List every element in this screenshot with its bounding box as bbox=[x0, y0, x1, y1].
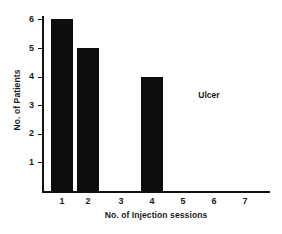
y-tick-label: 2 bbox=[20, 129, 34, 138]
x-axis-line bbox=[42, 191, 270, 193]
bar bbox=[141, 77, 163, 191]
y-tick-label: 5 bbox=[20, 44, 34, 53]
bar bbox=[77, 48, 99, 191]
x-tick-label: 3 bbox=[113, 196, 129, 206]
y-tick-mark bbox=[38, 105, 42, 106]
x-tick-label: 5 bbox=[175, 196, 191, 206]
y-tick-label: 3 bbox=[20, 101, 34, 110]
y-tick-label: 4 bbox=[20, 72, 34, 81]
y-axis-line bbox=[42, 16, 44, 193]
x-axis-label: No. of Injection sessions bbox=[42, 210, 270, 220]
x-tick-label: 4 bbox=[144, 196, 160, 206]
y-tick-mark bbox=[38, 48, 42, 49]
x-tick-label: 7 bbox=[237, 196, 253, 206]
x-tick-label: 1 bbox=[54, 196, 70, 206]
y-tick-mark bbox=[38, 134, 42, 135]
x-tick-label: 6 bbox=[206, 196, 222, 206]
y-tick-mark bbox=[38, 162, 42, 163]
bar bbox=[51, 19, 73, 191]
y-tick-label: 6 bbox=[20, 15, 34, 24]
bar-chart: 123456 1234567 No. of Patients No. of In… bbox=[0, 0, 282, 234]
y-tick-label: 1 bbox=[20, 158, 34, 167]
y-axis-label: No. of Patients bbox=[12, 45, 22, 155]
y-tick-mark bbox=[38, 19, 42, 20]
y-tick-mark bbox=[38, 77, 42, 78]
x-tick-label: 2 bbox=[80, 196, 96, 206]
series-annotation-ulcer: Ulcer bbox=[186, 90, 232, 100]
